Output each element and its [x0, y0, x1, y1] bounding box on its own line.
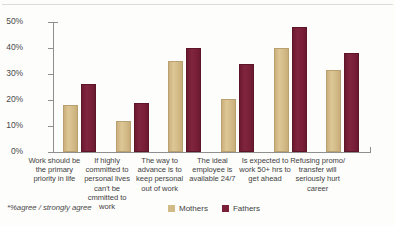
x-axis-label-line: seriously hurt [288, 174, 348, 183]
bar-fathers [344, 53, 359, 152]
legend-swatch-icon [222, 205, 229, 212]
x-axis-label-line: employee is [184, 165, 240, 174]
legend-item-fathers[interactable]: Fathers [222, 204, 260, 213]
x-axis-label-line: The ideal [184, 156, 240, 165]
bar-chart: 0%10%20%30%40%50% Work should bethe prim… [0, 0, 395, 226]
bar-group [108, 16, 161, 152]
y-tick-mark [48, 100, 54, 101]
x-axis-label-line: priority in life [25, 174, 83, 183]
legend-swatch-icon [168, 205, 175, 212]
bar-mothers [326, 70, 341, 152]
x-axis-label: Refusing promo/transfer willseriously hu… [288, 156, 348, 193]
y-tick-label: 30% [6, 68, 23, 78]
x-axis-label-line: The way to [131, 156, 189, 165]
y-tick-label: 20% [6, 94, 23, 104]
bar-mothers [274, 48, 289, 152]
bar-group [318, 16, 371, 152]
x-axis-label: Is expected towork 50+ hrs toget ahead [236, 156, 294, 184]
x-axis-label-line: career [288, 184, 348, 193]
bar-groups [55, 16, 371, 153]
bar-mothers [168, 61, 183, 152]
y-tick-mark [48, 22, 54, 23]
x-axis-label-line: If highly [80, 156, 135, 165]
legend-label: Mothers [179, 204, 208, 213]
y-tick-label: 10% [6, 120, 23, 130]
x-axis-label-line: advance is to [131, 165, 189, 174]
x-axis-label-line: Work should be [25, 156, 83, 165]
bar-fathers [239, 64, 254, 152]
page-top-rule [2, 4, 393, 5]
x-axis-label-line: committed to [80, 165, 135, 174]
y-tick-mark [48, 152, 54, 153]
x-axis-label: The idealemployee isavailable 24/7 [184, 156, 240, 184]
bar-group [55, 16, 108, 152]
plot-area: 0%10%20%30%40%50% [27, 16, 372, 158]
y-tick-label: 40% [6, 42, 23, 52]
x-axis-label-line: cmmitted to [80, 193, 135, 202]
x-axis-label-line: work 50+ hrs to [236, 165, 294, 174]
y-tick-label: 50% [6, 16, 23, 26]
y-tick-mark [48, 126, 54, 127]
x-axis-label-line: Refusing promo/ [288, 156, 348, 165]
bar-fathers [186, 48, 201, 152]
x-axis-label-line: available 24/7 [184, 174, 240, 183]
bar-fathers [292, 27, 307, 152]
bar-fathers [81, 84, 96, 152]
x-axis-label-line: out of work [131, 184, 189, 193]
bar-group [213, 16, 266, 152]
y-tick-label: 0% [11, 146, 23, 156]
chart-footnote: *%agree / strongly agree [7, 203, 92, 212]
x-axis-category-labels: Work should bethe primarypriority in lif… [28, 156, 348, 204]
legend-label: Fathers [233, 204, 260, 213]
bar-group [266, 16, 319, 152]
legend-item-mothers[interactable]: Mothers [168, 204, 208, 213]
y-tick-mark [48, 48, 54, 49]
x-axis-label-line: get ahead [236, 174, 294, 183]
bar-group [160, 16, 213, 152]
bar-mothers [63, 105, 78, 152]
x-axis-label-line: can't be [80, 184, 135, 193]
x-axis-label: The way toadvance is tokeep personalout … [131, 156, 189, 193]
bar-mothers [116, 121, 131, 152]
bar-fathers [134, 103, 149, 152]
x-axis-label-line: the primary [25, 165, 83, 174]
y-axis-line [53, 22, 54, 153]
bar-mothers [221, 99, 236, 152]
x-axis-label: Work should bethe primarypriority in lif… [25, 156, 83, 184]
y-tick-mark [48, 74, 54, 75]
chart-legend: MothersFathers [168, 204, 260, 213]
x-axis-label-line: keep personal [131, 174, 189, 183]
x-axis-label-line: transfer will [288, 165, 348, 174]
x-axis-label-line: personal lives [80, 174, 135, 183]
x-axis-label-line: Is expected to [236, 156, 294, 165]
